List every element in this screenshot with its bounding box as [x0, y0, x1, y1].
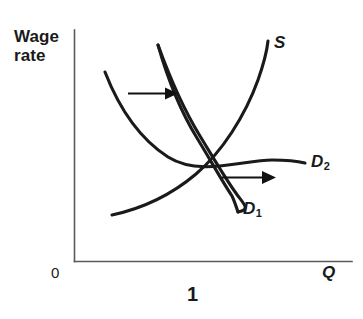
supply-curve-label: S: [274, 33, 285, 52]
demand-curve-1: [158, 45, 245, 212]
demand-curve-1-label: D1: [243, 199, 262, 219]
y-axis-title-line2: rate: [14, 46, 46, 65]
figure-caption: 1: [187, 283, 198, 305]
shift-arrow-lower-head: [262, 171, 276, 184]
origin-label: 0: [51, 265, 59, 282]
y-axis-title-line1: Wage: [14, 27, 59, 46]
demand-curve-1-stroke: [158, 45, 238, 212]
demand-curve-2-label: D2: [311, 152, 330, 172]
demand-curve-2-label-sub: 2: [323, 160, 330, 172]
demand-curve-1-label-sub: 1: [255, 207, 262, 219]
demand-curve-1-label-base: D: [243, 199, 255, 218]
figure-canvas: Wagerate 0 Q S D2 D1 1: [0, 0, 363, 319]
x-axis-title: Q: [322, 263, 335, 282]
demand-curve-2-label-base: D: [311, 152, 323, 171]
y-axis-title: Wagerate: [14, 27, 59, 65]
